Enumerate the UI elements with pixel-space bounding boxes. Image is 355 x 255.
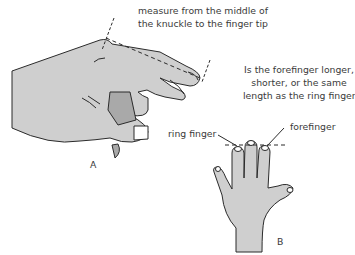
label-ring-finger: ring finger	[168, 127, 216, 140]
caption-a-line-1: measure from the middle of	[128, 4, 278, 17]
label-forefinger: forefinger	[290, 120, 336, 133]
question-line-3: length as the ring finger?	[243, 89, 355, 102]
question-line-2: shorter, or the same	[243, 76, 355, 89]
caption-a-line-2: the knuckle to the finger tip	[128, 17, 278, 30]
side-hand-a	[12, 40, 200, 159]
question-b: Is the forefinger longer, shorter, or th…	[243, 63, 355, 102]
question-line-1: Is the forefinger longer,	[243, 63, 355, 76]
caption-a: measure from the middle of the knuckle t…	[128, 4, 278, 30]
panel-label-b: B	[277, 235, 283, 248]
panel-label-a: A	[90, 158, 96, 171]
